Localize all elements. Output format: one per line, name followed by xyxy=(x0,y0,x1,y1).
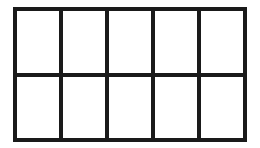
grid-cell-r2-c1 xyxy=(17,77,59,139)
grid-cell-r1-c2 xyxy=(63,11,105,73)
grid-cell-r1-c3 xyxy=(109,11,151,73)
grid-cell-r1-c4 xyxy=(155,11,197,73)
ten-frame-grid xyxy=(13,7,247,142)
grid-cell-r2-c2 xyxy=(63,77,105,139)
grid-cell-r2-c5 xyxy=(201,77,243,139)
grid-cell-r1-c1 xyxy=(17,11,59,73)
grid-cell-r1-c5 xyxy=(201,11,243,73)
grid-cell-r2-c4 xyxy=(155,77,197,139)
grid-cell-r2-c3 xyxy=(109,77,151,139)
